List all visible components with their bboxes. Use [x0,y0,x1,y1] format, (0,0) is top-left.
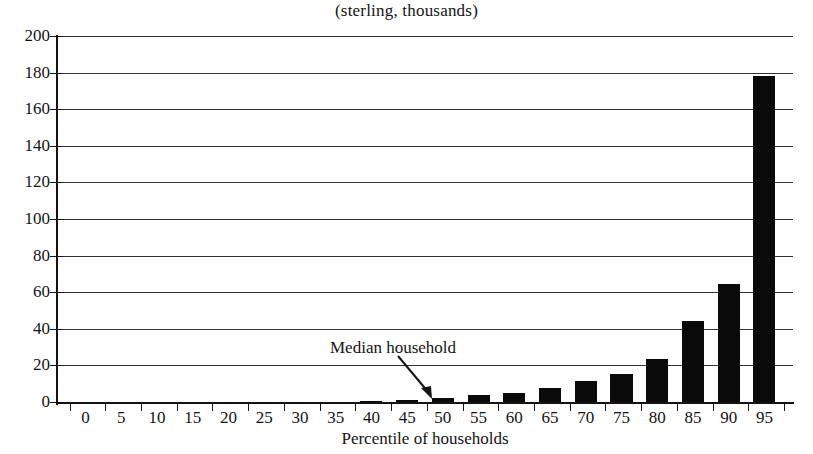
x-axis-tick-label: 40 [351,408,391,428]
bar [503,393,525,402]
x-axis-tick-mark [784,403,785,411]
bar [396,400,418,402]
x-axis-tick-label: 75 [602,408,642,428]
y-axis-tick-mark [50,182,63,183]
x-axis-tick-label: 70 [566,408,606,428]
y-axis-tick-mark [50,219,63,220]
bar [682,321,704,402]
y-axis-tick-label: 0 [4,393,50,410]
bar [539,388,561,402]
bar [718,284,740,402]
bar [610,374,632,402]
bar [468,395,490,402]
chart-title: (sterling, thousands) [0,1,813,21]
y-axis-tick-label: 20 [4,356,50,373]
bar [432,398,454,402]
x-axis-title: Percentile of households [57,429,793,449]
x-axis-tick-label: 15 [173,408,213,428]
y-axis-tick-mark [50,256,63,257]
y-axis-tick-mark [50,109,63,110]
y-axis-tick-label: 100 [4,210,50,227]
y-axis-tick-mark [50,292,63,293]
chart-root: (sterling, thousands) 200180160140120100… [0,0,813,454]
y-axis-tick-mark [50,329,63,330]
x-axis-tick-label: 5 [101,408,141,428]
median-household-annotation-label: Median household [330,338,456,358]
y-axis-tick-label: 140 [4,137,50,154]
y-axis-tick-mark [50,146,63,147]
x-axis-tick-label: 90 [709,408,749,428]
x-axis-line [57,402,794,404]
y-axis-tick-mark [50,36,63,37]
y-axis-tick-label: 200 [4,27,50,44]
x-axis-tick-label: 95 [744,408,784,428]
y-axis-tick-labels: 200180160140120100806040200 [0,0,50,454]
x-axis-tick-label: 35 [316,408,356,428]
y-axis-tick-label: 80 [4,247,50,264]
bar [646,359,668,402]
y-axis-tick-label: 60 [4,283,50,300]
bar [575,381,597,402]
y-axis-tick-mark [50,402,63,403]
x-axis-tick-label: 10 [137,408,177,428]
x-axis-tick-label: 50 [423,408,463,428]
x-axis-tick-label: 60 [494,408,534,428]
x-axis-tick-label: 20 [208,408,248,428]
x-axis-tick-label: 0 [66,408,106,428]
bar [360,401,382,402]
y-axis-tick-label: 160 [4,100,50,117]
x-axis-tick-label: 45 [387,408,427,428]
y-axis-tick-label: 120 [4,173,50,190]
x-axis-tick-label: 65 [530,408,570,428]
x-axis-tick-label: 25 [244,408,284,428]
x-axis-tick-label: 85 [673,408,713,428]
x-axis-tick-label: 30 [280,408,320,428]
y-axis-tick-mark [50,365,63,366]
y-axis-tick-label: 180 [4,64,50,81]
x-axis-tick-label: 55 [459,408,499,428]
y-axis-tick-mark [50,73,63,74]
bar [753,76,775,402]
y-axis-tick-label: 40 [4,320,50,337]
x-axis-tick-label: 80 [637,408,677,428]
